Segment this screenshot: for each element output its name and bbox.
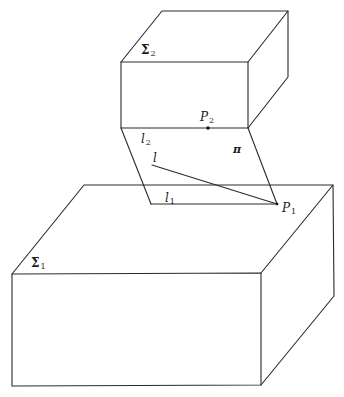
label-p2: P2 bbox=[200, 111, 214, 125]
label-pi-symbol: π bbox=[233, 143, 241, 156]
label-l2-sub: 2 bbox=[146, 138, 151, 147]
label-sigma2-symbol: Σ bbox=[141, 43, 149, 57]
label-sigma2: Σ2 bbox=[141, 44, 156, 58]
label-sigma1-sub: 1 bbox=[40, 262, 45, 271]
label-l1: l1 bbox=[165, 192, 175, 206]
label-p2-sub: 2 bbox=[209, 116, 214, 125]
label-p1-symbol: P bbox=[282, 201, 290, 215]
label-l: l bbox=[153, 152, 157, 164]
label-l2: l2 bbox=[141, 133, 151, 147]
label-sigma1-symbol: Σ bbox=[31, 256, 39, 270]
label-l2-symbol: l bbox=[141, 132, 145, 146]
label-l-symbol: l bbox=[153, 151, 157, 165]
label-p2-symbol: P bbox=[200, 110, 208, 124]
lower-box-front-face bbox=[12, 273, 261, 386]
point-p1-dot bbox=[276, 203, 279, 206]
label-p1-sub: 1 bbox=[291, 207, 296, 216]
label-pi: π bbox=[233, 144, 241, 155]
label-l1-sub: 1 bbox=[170, 197, 175, 206]
label-sigma2-sub: 2 bbox=[150, 49, 155, 58]
label-sigma1: Σ1 bbox=[31, 257, 46, 271]
upper-box-front-face bbox=[121, 62, 248, 128]
label-l1-symbol: l bbox=[165, 191, 169, 205]
label-p1: P1 bbox=[282, 202, 296, 216]
point-p2-dot bbox=[206, 126, 210, 130]
